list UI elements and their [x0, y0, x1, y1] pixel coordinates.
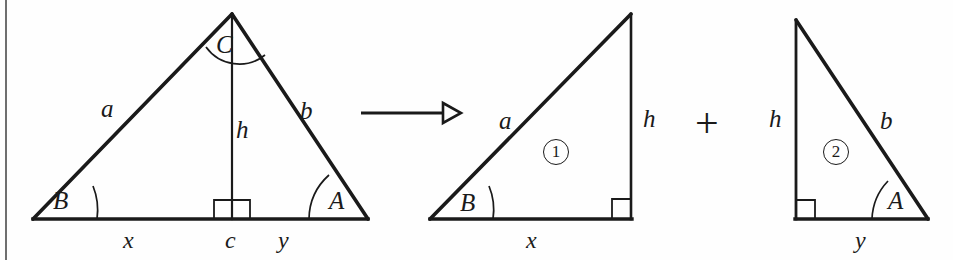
tri2-angle-arc-A [872, 181, 888, 219]
label-angle-C: C [216, 32, 233, 57]
oblique-angle-arc-A [309, 175, 329, 219]
tri1-right-angle-marker [612, 199, 631, 218]
tri2-label-angle-A: A [888, 188, 903, 213]
arrow-head [443, 103, 461, 123]
label-angle-A: A [329, 188, 344, 213]
label-base-x: x [123, 228, 134, 252]
oblique-triangle-group [33, 14, 368, 219]
oblique-angle-arc-B [93, 186, 98, 219]
right-triangle-two-group [795, 20, 928, 219]
oblique-right-angle-marker-right [232, 200, 250, 218]
tri1-label-angle-B: B [460, 190, 475, 215]
label-angle-B: B [53, 188, 68, 213]
tri1-label-side-h: h [643, 106, 656, 131]
label-base-c: c [225, 228, 236, 252]
oblique-right-angle-marker [214, 200, 232, 218]
label-side-b: b [300, 98, 313, 123]
label-side-a: a [101, 96, 114, 121]
tri1-label-base-x: x [526, 228, 537, 252]
arrow-right-icon [361, 103, 461, 123]
tri2-right-angle-marker [797, 200, 815, 218]
label-base-y: y [278, 228, 289, 252]
tri2-number-badge: 2 [823, 139, 849, 165]
tri1-number-badge: 1 [543, 139, 569, 165]
diagram-svg [0, 0, 953, 260]
tri1-label-side-a: a [499, 108, 512, 133]
figure-container: C a b h B A x c y a h B x 1 h b A y 2 + [0, 0, 953, 260]
tri2-label-base-y: y [855, 228, 866, 252]
tri2-label-side-b: b [880, 108, 893, 133]
tri1-angle-arc-B [489, 186, 494, 219]
tri2-label-side-h: h [769, 106, 782, 131]
tri2-hypotenuse-b [796, 20, 928, 219]
label-altitude-h: h [236, 117, 249, 142]
plus-operator: + [695, 102, 719, 144]
